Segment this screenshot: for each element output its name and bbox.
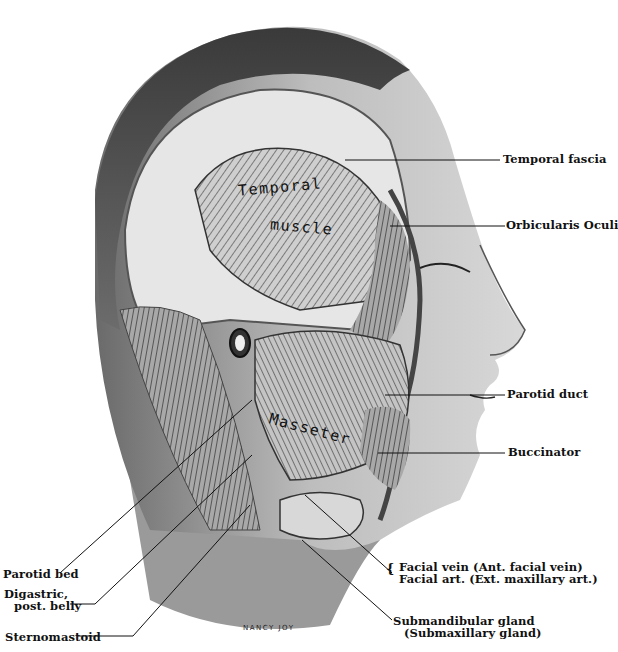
label-buccinator: Buccinator xyxy=(508,446,580,459)
submandibular-gland xyxy=(280,493,363,540)
artist-signature: NANCY JOY xyxy=(243,624,295,632)
label-sternomastoid: Sternomastoid xyxy=(5,631,101,644)
label-submandibular-line2: (Submaxillary gland) xyxy=(404,627,542,640)
label-parotid-duct: Parotid duct xyxy=(507,388,588,401)
label-orbicularis-oculi: Orbicularis Oculi xyxy=(506,219,618,232)
label-digastric-line2: post. belly xyxy=(14,600,81,613)
label-facial-art: Facial art. (Ext. maxillary art.) xyxy=(399,573,598,586)
label-parotid-bed: Parotid bed xyxy=(3,568,79,581)
label-temporal-fascia: Temporal fascia xyxy=(503,153,607,166)
brace: { xyxy=(386,562,394,575)
